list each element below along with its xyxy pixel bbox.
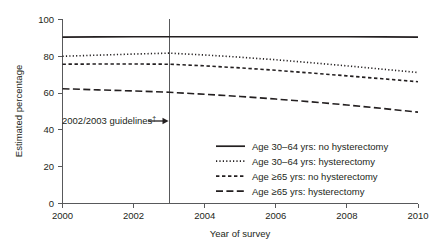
x-axis-title: Year of survey xyxy=(210,228,271,239)
guidelines-annotation-label: 2002/2003 guidelines† xyxy=(62,115,156,127)
x-tick-label-2010: 2010 xyxy=(407,210,428,221)
legend-item-3: Age ≥65 yrs: hysterectomy xyxy=(216,186,365,197)
legend-label-1: Age 30–64 yrs: hysterectomy xyxy=(252,156,375,167)
legend-item-0: Age 30–64 yrs: no hysterectomy xyxy=(216,141,388,152)
x-tick-label-2004: 2004 xyxy=(194,210,215,221)
y-tick-label-0: 0 xyxy=(49,198,54,209)
y-axis-ticks xyxy=(58,20,63,204)
legend-item-2: Age ≥65 yrs: no hysterectomy xyxy=(216,171,378,182)
y-axis-title: Estimated percentage xyxy=(13,65,24,157)
chart-legend: Age 30–64 yrs: no hysterectomy Age 30–64… xyxy=(216,141,388,197)
legend-label-0: Age 30–64 yrs: no hysterectomy xyxy=(252,141,388,152)
series-layer xyxy=(63,37,419,112)
series-line-1 xyxy=(63,53,419,72)
series-line-2 xyxy=(63,64,419,82)
x-tick-label-2008: 2008 xyxy=(336,210,357,221)
x-axis-ticks xyxy=(63,204,419,209)
y-tick-label-60: 60 xyxy=(43,87,54,98)
y-tick-label-20: 20 xyxy=(43,161,54,172)
legend-item-1: Age 30–64 yrs: hysterectomy xyxy=(216,156,375,167)
x-tick-label-2006: 2006 xyxy=(265,210,286,221)
x-tick-label-2002: 2002 xyxy=(123,210,144,221)
y-tick-label-40: 40 xyxy=(43,124,54,135)
y-tick-label-80: 80 xyxy=(43,51,54,62)
x-tick-label-2000: 2000 xyxy=(52,210,73,221)
line-chart: 100 80 60 40 20 0 Estimated percentage 2… xyxy=(0,0,443,248)
series-line-3 xyxy=(63,89,419,112)
chart-figure: 100 80 60 40 20 0 Estimated percentage 2… xyxy=(0,0,443,248)
y-tick-label-100: 100 xyxy=(38,14,54,25)
legend-label-3: Age ≥65 yrs: hysterectomy xyxy=(252,186,365,197)
legend-label-2: Age ≥65 yrs: no hysterectomy xyxy=(252,171,378,182)
